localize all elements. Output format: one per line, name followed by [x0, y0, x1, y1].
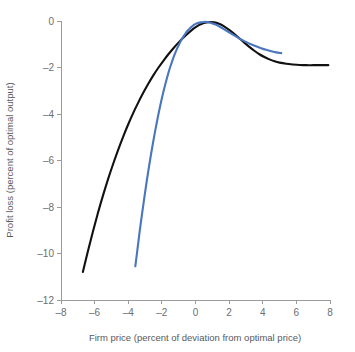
x-tick-label: –4	[123, 307, 135, 318]
x-axis-title: Firm price (percent of deviation from op…	[89, 332, 301, 343]
x-tick-label: 2	[226, 307, 232, 318]
y-tick-label: –6	[43, 155, 55, 166]
series-line-blue-curve	[135, 22, 281, 266]
series-line-black-curve	[83, 22, 328, 272]
y-tick-label: –8	[43, 202, 55, 213]
y-tick-label: –10	[37, 248, 54, 259]
y-axis-title: Profit loss (percent of optimal output)	[4, 82, 15, 237]
x-axis: –8–6–4–202468	[55, 300, 333, 318]
chart-canvas: 0–2–4–6–8–10–12 –8–6–4–202468 Firm price…	[0, 0, 355, 352]
y-axis: 0–2–4–6–8–10–12	[37, 16, 61, 306]
x-tick-label: –2	[156, 307, 168, 318]
y-tick-label: –12	[37, 295, 54, 306]
x-tick-label: 0	[193, 307, 199, 318]
y-tick-label: –4	[43, 109, 55, 120]
x-tick-label: 6	[294, 307, 300, 318]
x-tick-label: 8	[327, 307, 333, 318]
x-tick-label: –8	[55, 307, 67, 318]
series-lines	[83, 22, 328, 272]
profit-loss-chart: 0–2–4–6–8–10–12 –8–6–4–202468 Firm price…	[0, 0, 355, 352]
y-tick-label: 0	[48, 16, 54, 27]
y-tick-label: –2	[43, 62, 55, 73]
x-tick-label: –6	[89, 307, 101, 318]
x-tick-label: 4	[260, 307, 266, 318]
